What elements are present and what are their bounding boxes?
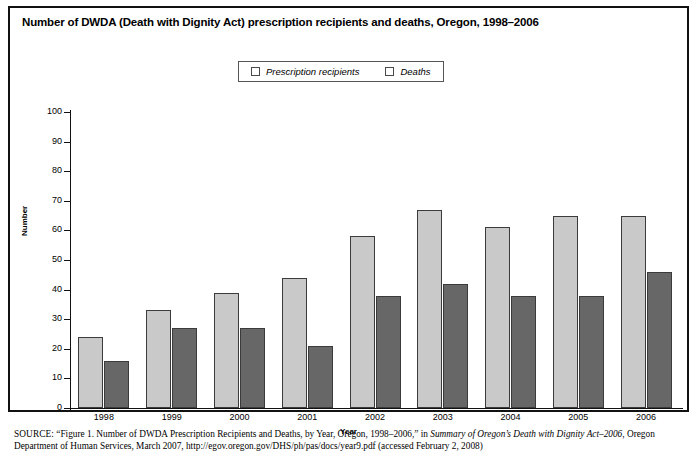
plot-wrapper: Number 0102030405060708090100 1998199920… <box>10 8 687 410</box>
plot-area: 0102030405060708090100 <box>70 112 680 408</box>
y-tick-label: 80 <box>38 165 62 176</box>
y-axis-title: Number <box>20 206 29 236</box>
figure-page: Number of DWDA (Death with Dignity Act) … <box>0 0 697 460</box>
bar-deaths-2004 <box>511 296 536 408</box>
bar-group <box>621 112 672 408</box>
x-tick-label: 2000 <box>206 412 274 423</box>
x-tick-label: 2005 <box>544 412 612 423</box>
bar-group <box>350 112 401 408</box>
bar-recipients-2006 <box>621 216 646 408</box>
y-tick-label: 20 <box>38 343 62 354</box>
bar-recipients-2003 <box>417 210 442 408</box>
bar-deaths-2006 <box>647 272 672 408</box>
source-title-italic: Summary of Oregon’s Death with Dignity A… <box>430 429 622 439</box>
bar-deaths-1998 <box>104 361 129 408</box>
bar-deaths-2003 <box>443 284 468 408</box>
bar-recipients-2001 <box>282 278 307 408</box>
bar-group <box>485 112 536 408</box>
x-tick-label: 2004 <box>477 412 545 423</box>
bar-recipients-1999 <box>146 310 171 408</box>
x-tick-label: 2002 <box>341 412 409 423</box>
bar-deaths-2005 <box>579 296 604 408</box>
figure-container: Number of DWDA (Death with Dignity Act) … <box>8 6 689 412</box>
bar-recipients-2004 <box>485 227 510 408</box>
y-tick-label: 0 <box>38 402 62 413</box>
bar-deaths-2002 <box>376 296 401 408</box>
y-tick-label: 30 <box>38 313 62 324</box>
x-tick-label: 1998 <box>70 412 138 423</box>
bar-series-group <box>70 112 680 408</box>
y-tick-label: 60 <box>38 224 62 235</box>
y-tick-label: 70 <box>38 195 62 206</box>
y-tick-label: 40 <box>38 284 62 295</box>
source-label: SOURCE: <box>14 429 54 439</box>
y-tick-label: 10 <box>38 372 62 383</box>
bar-group <box>282 112 333 408</box>
bar-recipients-2000 <box>214 293 239 408</box>
bar-recipients-2002 <box>350 236 375 408</box>
bar-recipients-2005 <box>553 216 578 408</box>
bar-deaths-2001 <box>308 346 333 408</box>
source-note: SOURCE: “Figure 1. Number of DWDA Prescr… <box>14 428 686 452</box>
bar-group <box>78 112 129 408</box>
y-tick-label: 100 <box>38 106 62 117</box>
bar-deaths-1999 <box>172 328 197 408</box>
bar-recipients-1998 <box>78 337 103 408</box>
x-tick-label: 1999 <box>138 412 206 423</box>
x-tick-label: 2001 <box>273 412 341 423</box>
x-tick-label: 2003 <box>409 412 477 423</box>
source-text-part1: “Figure 1. Number of DWDA Prescription R… <box>54 429 430 439</box>
y-tick-label: 90 <box>38 136 62 147</box>
x-tick-label: 2006 <box>612 412 680 423</box>
bar-group <box>146 112 197 408</box>
bar-group <box>417 112 468 408</box>
x-axis-line <box>70 408 683 409</box>
bar-group <box>214 112 265 408</box>
bar-deaths-2000 <box>240 328 265 408</box>
bar-group <box>553 112 604 408</box>
y-tick-mark <box>64 408 70 409</box>
y-tick-label: 50 <box>38 254 62 265</box>
